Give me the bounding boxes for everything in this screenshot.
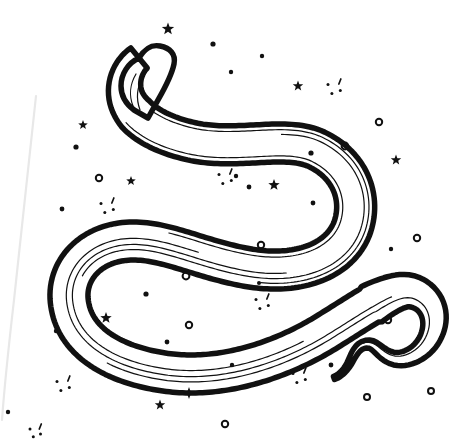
ring-icon [222, 421, 228, 427]
sparkle-dot [221, 182, 224, 185]
sparkle-cluster-icon [327, 79, 342, 95]
sparkle-dot [339, 89, 342, 92]
sparkle-dot [103, 211, 106, 214]
dot-icon [60, 207, 65, 212]
dot-icon [230, 363, 234, 367]
sparkle-cluster-icon [100, 198, 115, 214]
dot-icon [73, 144, 78, 149]
ring-icon [96, 175, 102, 181]
sparkle-tick [112, 198, 114, 203]
sparkle-dot [258, 307, 261, 310]
star-icon [293, 81, 303, 91]
sparkle-dot [218, 173, 221, 176]
sparkle-cluster-icon [255, 294, 270, 310]
sparkle-dot [56, 380, 59, 383]
star-icon [162, 23, 174, 35]
dot-icon [311, 201, 316, 206]
dot-icon [234, 174, 238, 178]
ring-icon [428, 388, 434, 394]
ring-icon [364, 394, 370, 400]
dot-icon [143, 291, 148, 296]
sparkle-tick [39, 424, 41, 429]
sparkle-dot [330, 92, 333, 95]
dot-icon [257, 281, 261, 285]
sparkle-dot [100, 202, 103, 205]
ring-icon [414, 235, 420, 241]
star-icon [78, 120, 88, 129]
sparkle-dot [292, 372, 295, 375]
dot-icon [260, 54, 264, 58]
star-icon [126, 176, 136, 185]
sparkle-dot [29, 428, 32, 431]
dot-icon [54, 329, 58, 333]
sparkle-cluster-icon [56, 376, 71, 392]
sparkle-dot [230, 179, 233, 182]
snake-body [50, 46, 446, 393]
sparkle-dot [295, 381, 298, 384]
ring-icon [186, 322, 192, 328]
dot-icon [6, 410, 10, 414]
dot-icon [247, 185, 252, 190]
sparkle-dot [68, 386, 71, 389]
sparkle-tick [230, 169, 232, 174]
dot-icon [229, 70, 233, 74]
star-icon [268, 179, 279, 190]
sparkle-dot [304, 378, 307, 381]
ring-icon [376, 119, 382, 125]
star-icon [155, 400, 165, 410]
sparkle-tick [267, 294, 269, 299]
ring-icon [258, 242, 264, 248]
sparkle-dot [112, 208, 115, 211]
paper-edge-line [2, 96, 36, 420]
snake-illustration [0, 0, 470, 441]
dot-icon [308, 150, 313, 155]
sparkle-dot [39, 433, 42, 436]
star-icon [100, 312, 111, 323]
sparkle-dot [255, 298, 258, 301]
sparkle-dot [32, 435, 35, 438]
dot-icon [389, 247, 393, 251]
sparkle-dot [267, 304, 270, 307]
sparkle-tick [68, 376, 70, 381]
dot-icon [329, 363, 334, 368]
artwork-canvas: Celestial Snake Line Art [0, 0, 470, 441]
sparkle-dot [59, 389, 62, 392]
sparkle-tick [339, 79, 341, 84]
star-icon [391, 155, 401, 165]
sparkle-cluster-icon [218, 169, 233, 185]
dot-icon [210, 41, 215, 46]
dot-icon [165, 340, 170, 345]
sparkle-cluster-icon [29, 424, 43, 438]
sparkle-dot [327, 83, 330, 86]
